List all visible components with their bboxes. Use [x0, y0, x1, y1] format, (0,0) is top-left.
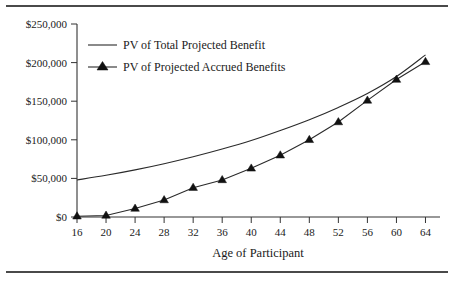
x-tick-label: 16: [72, 226, 84, 238]
x-tick-label: 48: [304, 226, 316, 238]
chart-svg: $0$50,000$100,000$150,000$200,000$250,00…: [0, 0, 454, 282]
legend-swatch-triangle-accrued: [97, 62, 108, 71]
legend-label-total: PV of Total Projected Benefit: [123, 38, 266, 52]
x-tick-label: 24: [130, 226, 142, 238]
x-tick-label: 36: [217, 226, 229, 238]
y-tick-label: $250,000: [26, 18, 68, 30]
y-tick-label: $200,000: [26, 57, 68, 69]
y-axis-tick-group: $0$50,000$100,000$150,000$200,000$250,00…: [26, 18, 77, 223]
y-tick-label: $150,000: [26, 95, 68, 107]
y-tick-label: $100,000: [26, 134, 68, 146]
x-tick-label: 60: [391, 226, 403, 238]
data-point-marker: [421, 57, 430, 64]
data-point-marker: [363, 96, 372, 103]
x-axis-title: Age of Participant: [212, 246, 304, 260]
x-tick-label: 32: [188, 226, 199, 238]
data-point-marker: [73, 212, 82, 219]
data-point-marker: [334, 118, 343, 125]
chart-legend: PV of Total Projected Benefit PV of Proj…: [88, 38, 286, 74]
data-point-marker: [305, 135, 314, 142]
y-tick-label: $50,000: [31, 172, 67, 184]
series-line-projected-accrued-benefits: [77, 62, 425, 216]
x-tick-label: 44: [275, 226, 287, 238]
y-tick-label: $0: [56, 211, 68, 223]
x-tick-label: 20: [101, 226, 113, 238]
x-tick-label: 52: [333, 226, 344, 238]
x-axis-tick-group: 16202428323640444852566064: [72, 217, 454, 238]
x-tick-label: 64: [420, 226, 432, 238]
series-markers-projected-accrued-benefits: [73, 57, 430, 219]
chart-plot-area: $0$50,000$100,000$150,000$200,000$250,00…: [0, 0, 454, 282]
legend-label-accrued: PV of Projected Accrued Benefits: [123, 60, 286, 74]
x-tick-label: 40: [246, 226, 258, 238]
data-point-marker: [276, 151, 285, 158]
x-tick-label: 28: [159, 226, 171, 238]
figure-container: $0$50,000$100,000$150,000$200,000$250,00…: [0, 0, 454, 282]
x-tick-label: 56: [362, 226, 374, 238]
